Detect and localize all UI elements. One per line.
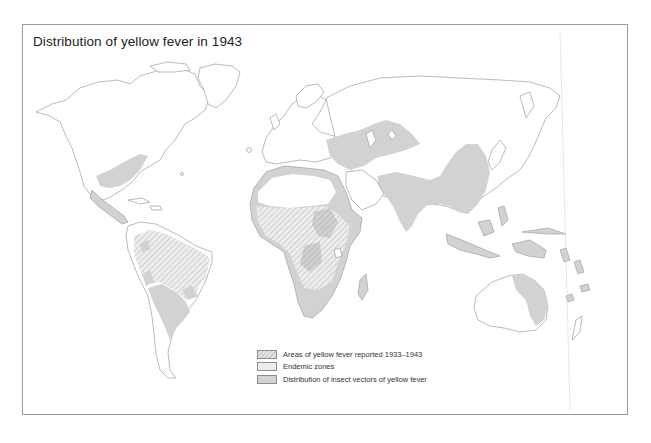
map-title: Distribution of yellow fever in 1943 bbox=[33, 34, 242, 49]
grey-swatch-icon bbox=[257, 375, 277, 384]
madagascar bbox=[358, 274, 368, 300]
new-guinea bbox=[512, 240, 546, 258]
legend-label: Areas of yellow fever reported 1933–1943 bbox=[283, 350, 422, 359]
legend-label: Distribution of insect vectors of yellow… bbox=[283, 375, 427, 384]
indonesia bbox=[446, 234, 500, 258]
legend-item-reported: Areas of yellow fever reported 1933–1943 bbox=[257, 348, 427, 361]
map-legend: Areas of yellow fever reported 1933–1943… bbox=[257, 348, 427, 386]
light-swatch-icon bbox=[257, 362, 277, 371]
legend-item-vectors: Distribution of insect vectors of yellow… bbox=[257, 373, 427, 386]
legend-label: Endemic zones bbox=[283, 362, 334, 371]
legend-item-endemic: Endemic zones bbox=[257, 361, 427, 374]
hatched-swatch-icon bbox=[257, 350, 277, 359]
